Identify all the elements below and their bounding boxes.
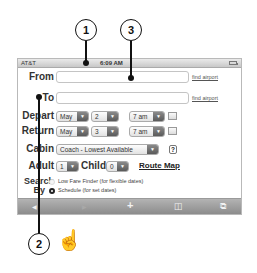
callout-1: 1 [75, 19, 97, 41]
depart-label: Depart [18, 110, 54, 121]
return-time-value: 7 am [133, 128, 147, 135]
to-field[interactable] [56, 92, 189, 104]
return-month-value: May [60, 128, 72, 135]
from-field[interactable] [56, 71, 189, 83]
low-fare-finder-label: Low Fare Finder (for flexible dates) [58, 178, 143, 184]
callout-2-leader [38, 96, 40, 234]
depart-time-value: 7 am [133, 113, 147, 120]
child-select[interactable]: 0▼ [106, 161, 129, 172]
add-bookmark-icon[interactable]: + [127, 200, 133, 210]
adult-select[interactable]: 1▼ [56, 161, 79, 172]
callout-3-leader [130, 41, 132, 77]
help-button[interactable]: ? [169, 145, 177, 154]
adult-value: 1 [60, 163, 64, 170]
chevron-down-icon: ▼ [147, 145, 158, 154]
callout-3: 3 [120, 19, 142, 41]
return-calendar-icon[interactable] [168, 127, 177, 135]
chevron-down-icon: ▼ [117, 162, 128, 171]
back-arrow-icon[interactable]: ◀ [32, 202, 37, 212]
chevron-down-icon: ▼ [77, 112, 88, 121]
child-value: 0 [110, 163, 114, 170]
to-find-airport-link[interactable]: find airport [192, 95, 218, 101]
depart-time-select[interactable]: 7 am▼ [129, 111, 165, 122]
pages-icon[interactable]: ⧉ [220, 201, 226, 211]
return-month-select[interactable]: May▼ [56, 126, 89, 137]
from-find-airport-link[interactable]: find airport [192, 74, 218, 80]
phone-screen: AT&T 6:09 AM From find airport To find a… [17, 58, 242, 215]
forward-arrow-icon[interactable]: ▶ [82, 202, 87, 212]
depart-month-value: May [60, 113, 72, 120]
chevron-down-icon: ▼ [153, 127, 164, 136]
route-map-link[interactable]: Route Map [139, 161, 180, 170]
cabin-value: Coach - Lowest Available [60, 146, 133, 153]
depart-month-select[interactable]: May▼ [56, 111, 89, 122]
chevron-down-icon: ▼ [153, 112, 164, 121]
battery-icon [229, 61, 237, 65]
clock: 6:09 AM [100, 59, 123, 67]
adult-label: Adult [18, 160, 54, 171]
callout-3-dot [128, 75, 134, 81]
child-label: Child [81, 160, 106, 171]
chevron-down-icon: ▼ [67, 162, 78, 171]
chevron-down-icon: ▼ [77, 127, 88, 136]
carrier-label: AT&T [21, 59, 36, 67]
search-by-label-line2: By [18, 185, 45, 195]
depart-day-select[interactable]: 2▼ [91, 111, 119, 122]
return-day-select[interactable]: 3▼ [91, 126, 119, 137]
schedule-label: Schedule (for set dates) [58, 187, 116, 193]
return-time-select[interactable]: 7 am▼ [129, 126, 165, 137]
depart-calendar-icon[interactable] [168, 112, 177, 120]
depart-day-value: 2 [95, 113, 99, 120]
schedule-radio[interactable] [49, 188, 55, 194]
chevron-down-icon: ▼ [107, 127, 118, 136]
browser-toolbar: ◀ ▶ + ◫ ⧉ [18, 198, 241, 214]
return-day-value: 3 [95, 128, 99, 135]
low-fare-finder-radio[interactable] [49, 179, 55, 185]
return-label: Return [18, 125, 54, 136]
cabin-label: Cabin [18, 143, 54, 154]
chevron-down-icon: ▼ [107, 112, 118, 121]
from-label: From [22, 71, 54, 82]
pointing-hand-icon: ☝ [57, 228, 82, 252]
callout-2: 2 [28, 233, 50, 255]
callout-1-leader [85, 41, 87, 62]
bookmarks-icon[interactable]: ◫ [174, 201, 183, 211]
callout-1-dot [83, 60, 89, 66]
cabin-select[interactable]: Coach - Lowest Available▼ [56, 144, 159, 155]
